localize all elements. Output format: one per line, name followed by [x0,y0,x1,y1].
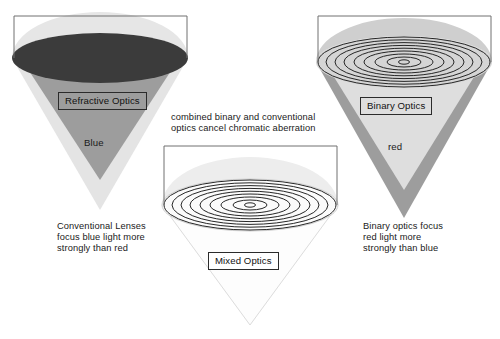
caption-right-line-2: red light more [363,232,421,243]
left-lens-dark-face [12,33,188,83]
label-mixed-optics[interactable]: Mixed Optics [208,252,279,270]
optics-diagram: Refractive Optics Blue Conventional Lens… [0,0,500,339]
label-binary-optics[interactable]: Binary Optics [360,97,432,115]
middle-lens-disc [162,179,338,231]
right-lens-disc [316,36,492,88]
label-refractive-optics[interactable]: Refractive Optics [58,92,147,110]
caption-right-line-3: strongly than blue [363,243,438,254]
color-word-blue: Blue [84,137,104,148]
color-word-red: red [388,141,402,152]
left-cone-group [12,12,188,210]
caption-right-line-1: Binary optics focus [363,221,443,232]
annotation-line-1: combined binary and conventional [171,112,315,123]
middle-cone-group [162,146,338,325]
annotation-line-2: optics cancel chromatic aberration [171,123,315,134]
right-cone-group [316,16,492,218]
caption-left-line-3: strongly than red [57,243,128,254]
caption-left-line-1: Conventional Lenses [57,221,146,232]
diagram-graphics [0,0,500,339]
caption-left-line-2: focus blue light more [57,232,145,243]
